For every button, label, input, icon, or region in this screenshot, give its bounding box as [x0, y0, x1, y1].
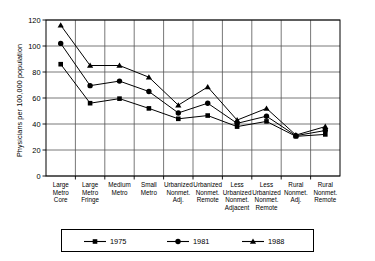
x-axis-category-line: Nonmet.: [220, 196, 253, 204]
data-point-1975-5-square: [205, 113, 210, 118]
legend-label: 1988: [268, 237, 284, 246]
x-axis-category-line: Metro: [132, 189, 165, 197]
x-axis-category-line: Nonmet.: [279, 189, 312, 197]
data-point-1981-7-circle: [264, 114, 269, 119]
x-axis-category-line: Remote: [191, 196, 224, 204]
x-axis-category-label: RuralNonmet.Adj.: [279, 181, 312, 204]
legend-marker-square-icon: [84, 236, 106, 247]
x-axis-category-line: Adj.: [162, 196, 195, 204]
x-axis-category-label: UrbanizedNonmet.Adj.: [162, 181, 195, 204]
x-axis-category-label: LargeMetroCore: [44, 181, 77, 204]
legend-marker-circle-icon: [167, 236, 189, 247]
data-point-1981-0-circle: [58, 41, 63, 46]
data-point-1975-2-square: [117, 96, 122, 101]
x-axis-category-line: Nonmet.: [162, 189, 195, 197]
data-point-1975-1-square: [88, 101, 93, 106]
data-point-1981-2-circle: [117, 78, 122, 83]
legend-item-1988: 1988: [242, 235, 284, 248]
data-point-1981-5-circle: [205, 101, 210, 106]
x-axis-category-line: Remote: [309, 196, 342, 204]
x-axis-category-line: Metro: [103, 189, 136, 197]
data-point-1975-3-square: [147, 106, 152, 111]
x-axis-category-label: RuralNonmet.Remote: [309, 181, 342, 204]
x-axis-category-line: Rural: [309, 181, 342, 189]
x-axis-category-line: Nonmet.: [309, 189, 342, 197]
x-axis-category-line: Adj.: [279, 196, 312, 204]
data-point-1975-0-square: [58, 62, 63, 67]
legend-label: 1975: [110, 237, 126, 246]
x-axis-category-line: Urbanized: [220, 189, 253, 197]
x-axis-category-label: LargeMetroFringe: [73, 181, 106, 204]
x-axis-category-line: Small: [132, 181, 165, 189]
y-axis-tick-label: 40: [32, 120, 40, 129]
x-axis-category-line: Urbanized: [191, 181, 224, 189]
data-point-1981-3-circle: [146, 89, 151, 94]
x-axis-category-line: Medium: [103, 181, 136, 189]
legend-marker-triangle-icon: [242, 236, 264, 247]
x-axis-category-line: Large: [44, 181, 77, 189]
data-point-1981-1-circle: [87, 83, 92, 88]
x-axis-category-line: Metro: [44, 189, 77, 197]
x-axis-category-line: Nonmet.: [191, 189, 224, 197]
x-axis-category-line: Metro: [73, 189, 106, 197]
x-axis-category-label: SmallMetro: [132, 181, 165, 196]
y-axis-tick-label: 80: [32, 68, 40, 77]
data-point-1981-4-circle: [176, 110, 181, 115]
chart-legend: 197519811988: [61, 229, 314, 252]
legend-sample-square: [93, 239, 98, 244]
x-axis-category-line: Large: [73, 181, 106, 189]
data-point-1975-4-square: [176, 117, 181, 122]
x-axis-category-line: Core: [44, 196, 77, 204]
x-axis-category-label: UrbanizedNonmet.Remote: [191, 181, 224, 204]
x-axis-category-line: Urbanized: [162, 181, 195, 189]
legend-item-1981: 1981: [167, 235, 209, 248]
y-axis-tick-label: 120: [28, 16, 40, 25]
legend-item-1975: 1975: [84, 235, 126, 248]
legend-label: 1981: [193, 237, 209, 246]
x-axis-category-label: MediumMetro: [103, 181, 136, 196]
x-axis-category-line: Rural: [279, 181, 312, 189]
y-axis-tick-label: 100: [28, 42, 40, 51]
legend-sample-circle: [175, 239, 180, 244]
y-axis-tick-label: 0: [36, 172, 40, 181]
x-axis-category-line: Fringe: [73, 196, 106, 204]
y-axis-tick-label: 20: [32, 146, 40, 155]
y-axis-tick-label: 60: [32, 94, 40, 103]
x-axis-category-line: Urbanized: [250, 189, 283, 197]
x-axis-category-line: Less: [220, 181, 253, 189]
x-axis-category-label: LessUrbanizedNonmet.Remote: [250, 181, 283, 211]
chart-figure: Physicians per 100,000 population 020406…: [0, 0, 375, 261]
x-axis-category-line: Less: [250, 181, 283, 189]
x-axis-category-line: Adjacent: [220, 204, 253, 212]
data-point-1975-7-square: [264, 119, 269, 124]
x-axis-category-label: LessUrbanizedNonmet.Adjacent: [220, 181, 253, 211]
x-axis-category-line: Nonmet.: [250, 196, 283, 204]
plot-canvas: 020406080100120: [0, 0, 375, 261]
x-axis-category-line: Remote: [250, 204, 283, 212]
